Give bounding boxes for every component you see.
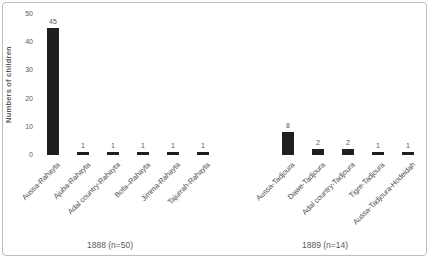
bar <box>312 149 324 155</box>
bar-value-label: 1 <box>406 142 410 150</box>
y-tick-label: 30 <box>13 66 33 74</box>
bar <box>107 152 119 155</box>
y-tick-label: 20 <box>13 95 33 103</box>
y-tick-label: 40 <box>13 38 33 46</box>
bar <box>197 152 209 155</box>
bar-value-label: 8 <box>286 122 290 130</box>
bar-value-label: 1 <box>201 142 205 150</box>
category-label: Adal country-Tadjoura <box>301 161 357 217</box>
bar <box>372 152 384 155</box>
y-tick-label: 50 <box>13 10 33 18</box>
bar <box>282 132 294 155</box>
bar-value-label: 1 <box>141 142 145 150</box>
bar <box>342 149 354 155</box>
category-label: Aussa-Tadjoura-Hodeidah <box>351 161 416 226</box>
group-label: 1889 (n=14) <box>302 240 348 250</box>
bar <box>77 152 89 155</box>
bar <box>402 152 414 155</box>
bar <box>137 152 149 155</box>
bar-value-label: 1 <box>171 142 175 150</box>
y-tick-label: 0 <box>13 151 33 159</box>
bar-value-label: 1 <box>81 142 85 150</box>
bar-value-label: 2 <box>316 139 320 147</box>
y-tick-label: 10 <box>13 123 33 131</box>
bar-value-label: 1 <box>376 142 380 150</box>
bar <box>47 28 59 155</box>
bar-value-label: 45 <box>49 18 57 26</box>
bar-value-label: 1 <box>111 142 115 150</box>
bar <box>167 152 179 155</box>
group-label: 1888 (n=50) <box>87 240 133 250</box>
bar-value-label: 2 <box>346 139 350 147</box>
plot-area: Numbers of children 0102030405045Aussa-R… <box>0 0 430 263</box>
y-axis-title: Numbers of children <box>4 25 13 145</box>
